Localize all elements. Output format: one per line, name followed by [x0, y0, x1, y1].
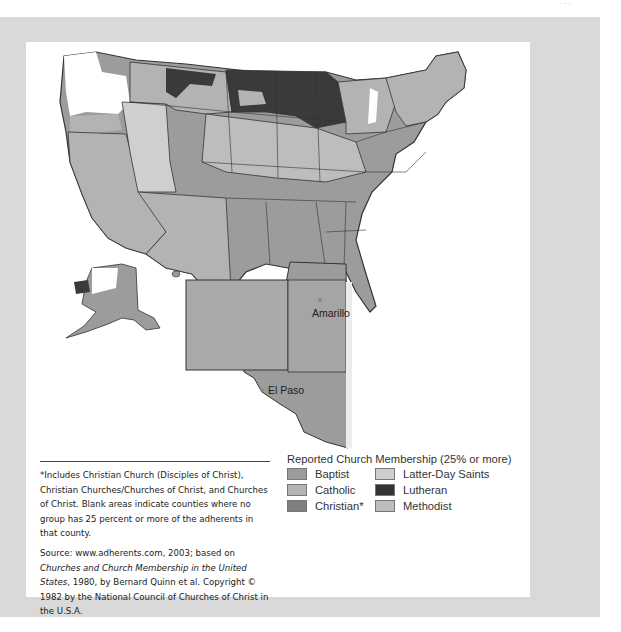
- footnote-block: *Includes Christian Church (Disciples of…: [40, 461, 270, 624]
- footnote-source: Source: www.adherents.com, 2003; based o…: [40, 546, 270, 619]
- swatch-christian: [287, 500, 307, 512]
- region-great-lakes-catholic: [338, 78, 396, 134]
- region-dakota-catholic-patches: [238, 90, 266, 106]
- swatch-catholic: [287, 484, 307, 496]
- city-label-el-paso: El Paso: [268, 384, 304, 396]
- swatch-baptist: [287, 468, 307, 480]
- swatch-latter-day-saints: [375, 468, 395, 480]
- legend-item-baptist: Baptist: [287, 467, 375, 481]
- texas-panhandle: [288, 280, 346, 372]
- map-legend: Reported Church Membership (25% or more)…: [287, 453, 527, 513]
- legend-item-catholic: Catholic: [287, 483, 375, 497]
- swatch-lutheran: [375, 484, 395, 496]
- footnote-note: *Includes Christian Church (Disciples of…: [40, 468, 270, 541]
- us-religion-map: Amarillo El Paso: [26, 42, 530, 460]
- legend-item-latter-day-saints: Latter-Day Saints: [375, 467, 505, 481]
- new-mexico-inset: [186, 280, 288, 370]
- legend-item-lutheran: Lutheran: [375, 483, 505, 497]
- legend-item-christian: Christian*: [287, 499, 375, 513]
- legend-item-methodist: Methodist: [375, 499, 505, 513]
- alaska-lutheran: [74, 280, 90, 294]
- page-corner-mark: · · ·: [560, 0, 571, 7]
- swatch-methodist: [375, 500, 395, 512]
- city-label-amarillo: Amarillo: [312, 307, 350, 319]
- legend-title: Reported Church Membership (25% or more): [287, 453, 527, 465]
- region-northeast-catholic: [386, 52, 466, 126]
